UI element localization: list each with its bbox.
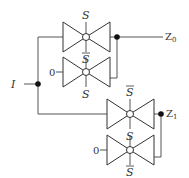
circuit-diagram: I Z0 Z1 0 0 S S S S S S [0, 0, 189, 178]
gate3-bottom-label: S [126, 130, 134, 143]
gate3-top-label: S [126, 86, 134, 99]
gate2-zero-label: 0 [49, 67, 55, 78]
gate3-bubble-icon [127, 111, 134, 118]
gate2-bottom-label: S [82, 88, 90, 101]
wire-gate4-out [154, 114, 161, 157]
input-label: I [10, 78, 16, 91]
z0-label: Z0 [165, 31, 176, 44]
z1-node [158, 111, 164, 117]
input-node [35, 81, 41, 87]
gate1-top-label: S [82, 9, 90, 22]
gate4-bubble-icon [127, 147, 134, 154]
z0-node [114, 34, 120, 40]
gate1-bubble-icon [83, 34, 90, 41]
gate1-bottom-label: S [82, 53, 90, 66]
gate4-zero-label: 0 [93, 145, 99, 156]
gate2-bubble-icon [83, 69, 90, 76]
gate4-bottom-label: S [126, 166, 134, 178]
wire-gate2-out [110, 37, 117, 78]
z1-label: Z1 [166, 108, 177, 121]
